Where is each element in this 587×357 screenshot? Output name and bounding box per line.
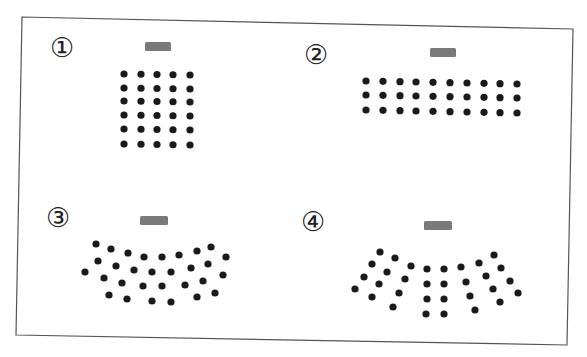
seat-dot-icon [137,98,144,105]
seat-dot-icon [401,275,408,282]
seat-dot-icon [351,285,358,292]
seat-dot-icon [169,85,176,92]
seat-dot-icon [181,281,188,288]
seat-dot-icon [112,262,119,269]
seat-dot-icon [193,293,200,300]
seat-dot-icon [105,291,112,298]
seat-dot-icon [497,264,504,271]
seat-dot-icon [167,268,174,275]
seat-dot-icon [137,71,144,78]
seat-dot-icon [423,265,430,272]
seat-dot-icon [368,260,375,267]
seat-dot-icon [120,97,127,104]
seat-dot-icon [153,126,160,133]
seat-dot-icon [440,280,447,287]
seat-dot-icon [153,98,160,105]
seat-dot-icon [107,245,114,252]
seat-dot-icon [429,79,436,86]
seating-diagram: ①②③④ [0,0,587,357]
seat-dot-icon [137,85,144,92]
seat-dot-icon [395,289,402,296]
seat-dot-icon [513,94,520,101]
seat-dot-icon [137,112,144,119]
seat-dot-icon [362,106,369,113]
teacher-desk-icon [145,42,171,51]
seat-dot-icon [412,107,419,114]
teacher-desk-icon [424,221,452,230]
seat-dot-icon [120,84,127,91]
seat-dot-icon [480,80,487,87]
seat-dot-icon [120,140,127,147]
seat-dot-icon [396,92,403,99]
seat-dot-icon [187,264,194,271]
seat-dot-icon [169,71,176,78]
seat-dot-icon [375,280,382,287]
seat-dot-icon [140,253,147,260]
seat-dot-icon [376,248,383,255]
seat-dot-icon [222,253,229,260]
seat-dot-icon [139,282,146,289]
seating-arrangements-figure: ①②③④ [0,0,587,357]
seat-dot-icon [440,295,447,302]
seat-dot-icon [457,263,464,270]
seat-dot-icon [169,141,176,148]
seat-dot-icon [396,78,403,85]
seat-dot-icon [186,126,193,133]
seat-dot-icon [199,277,206,284]
seat-dot-icon [463,93,470,100]
seat-dot-icon [153,85,160,92]
seat-dot-icon [148,268,155,275]
seat-dot-icon [207,243,214,250]
seat-dot-icon [513,109,520,116]
seat-dot-icon [429,93,436,100]
seat-dot-icon [446,79,453,86]
figure-frame [16,17,573,345]
seat-dot-icon [423,295,430,302]
seat-dot-icon [204,260,211,267]
seat-dot-icon [391,254,398,261]
seat-dot-icon [219,271,226,278]
seat-dot-icon [120,70,127,77]
seat-dot-icon [489,285,496,292]
seat-dot-icon [169,112,176,119]
panel-2-number-label: ② [304,39,328,70]
seat-dot-icon [482,272,489,279]
seat-dot-icon [193,247,200,254]
seat-dot-icon [412,92,419,99]
panel-4-number-label: ④ [301,206,325,237]
seat-dot-icon [463,108,470,115]
seat-dot-icon [167,298,174,305]
seat-dot-icon [379,92,386,99]
panel-1-number-label: ① [50,32,74,63]
seat-dot-icon [496,109,503,116]
seat-dot-icon [463,79,470,86]
seat-dot-icon [169,126,176,133]
seat-dot-icon [186,112,193,119]
seat-dot-icon [94,257,101,264]
seat-dot-icon [362,91,369,98]
seat-dot-icon [137,126,144,133]
seat-dot-icon [175,251,182,258]
seat-dot-icon [480,94,487,101]
seat-dot-icon [118,279,125,286]
teacher-desk-icon [430,48,456,57]
seat-dot-icon [158,253,165,260]
seat-dot-icon [440,310,447,317]
seat-dot-icon [120,111,127,118]
seat-dot-icon [506,277,513,284]
seat-dot-icon [153,71,160,78]
seat-dot-icon [368,293,375,300]
seat-dot-icon [466,292,473,299]
seat-dot-icon [496,94,503,101]
seat-dot-icon [446,93,453,100]
seat-dot-icon [429,108,436,115]
seat-dot-icon [124,249,131,256]
seat-dot-icon [440,265,447,272]
seat-dot-icon [92,240,99,247]
seat-dot-icon [379,78,386,85]
panel-3-number-label: ③ [46,202,70,233]
seat-dot-icon [446,108,453,115]
seat-dot-icon [186,71,193,78]
seat-dot-icon [186,141,193,148]
seat-dot-icon [462,278,469,285]
